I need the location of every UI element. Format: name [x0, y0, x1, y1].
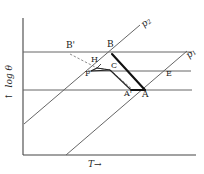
- point-label-a: A: [142, 90, 149, 99]
- solid-b-to-a: [112, 54, 145, 90]
- y-axis-label: ↑log θ: [5, 65, 14, 100]
- x-axis-arrow: →: [94, 159, 102, 169]
- point-label-c: C: [111, 62, 117, 70]
- point-label-a-prime: A': [124, 90, 132, 98]
- point-label-b: B: [107, 40, 114, 49]
- thermodynamic-diagram: ↑log θ T→ p2 p1 B' B H C F E A' A: [0, 0, 204, 174]
- point-label-f: F: [85, 70, 91, 78]
- solid-aprime-to-c: [110, 70, 131, 90]
- isobar-p2-line: [24, 25, 140, 124]
- point-label-e: E: [166, 70, 172, 78]
- point-label-b-prime: B': [66, 41, 75, 50]
- point-label-h: H: [91, 56, 98, 64]
- x-axis-label: T→: [88, 160, 102, 169]
- y-axis-label-text: log θ: [4, 65, 14, 87]
- diagram-canvas: [0, 0, 204, 174]
- y-axis-arrow: ↑: [4, 92, 14, 100]
- solid-h-apex: [97, 64, 101, 68]
- isobar-p1-line: [66, 51, 187, 155]
